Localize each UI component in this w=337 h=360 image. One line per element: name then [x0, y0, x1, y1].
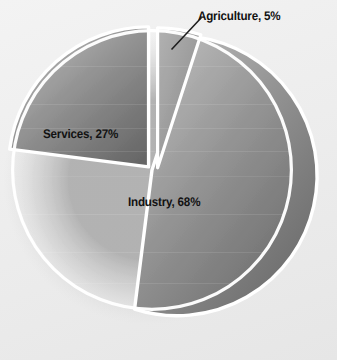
pie-slice-services[interactable] — [10, 27, 149, 167]
pie-chart-svg — [0, 0, 337, 360]
pie-label-industry: Industry, 68% — [128, 196, 200, 209]
pie-label-agriculture: Agriculture, 5% — [198, 10, 280, 23]
pie-label-services: Services, 27% — [43, 128, 118, 141]
pie-chart: Agriculture, 5% Services, 27% Industry, … — [0, 0, 337, 360]
